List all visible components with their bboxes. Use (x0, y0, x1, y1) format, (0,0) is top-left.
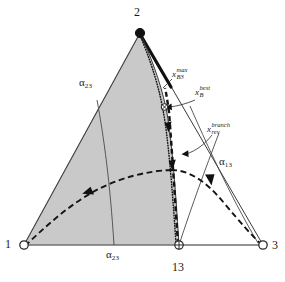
alpha-23-upper-subscript: 23 (85, 82, 92, 90)
azeotrope-label-13: 13 (172, 261, 184, 273)
annotation-x-b-best: xbestB (195, 85, 210, 98)
leader-x-rev-branch-arrowhead (182, 150, 189, 157)
vertex-2-marker (135, 28, 144, 37)
annotation-x-rev-branch-sub: rev (212, 129, 230, 136)
annotation-x-b-best-sub: B (200, 92, 210, 99)
dashed-residue-curve-right (171, 170, 262, 245)
vertex-label-2: 2 (134, 6, 140, 18)
ternary-diagram-figure: 2 1 3 13 α23 α23 α13 xmaxB3 xbestB xbran… (0, 0, 285, 282)
annotation-x-rev-branch: xbranchrev (207, 122, 230, 135)
ternary-diagram-canvas (0, 0, 285, 282)
alpha-23-lower-subscript: 23 (112, 254, 119, 262)
annotation-x-b-best-base: x (195, 87, 199, 97)
x-b-best-marker (161, 104, 168, 111)
annotation-x-rev-branch-base: x (207, 124, 211, 134)
vertex-3-marker (259, 241, 267, 249)
alpha-23-upper-label: α23 (79, 77, 92, 90)
vertex-label-1: 1 (5, 238, 11, 250)
azeotrope-13-marker (175, 241, 184, 250)
alpha-13-isoline-a (179, 133, 219, 245)
alpha-23-lower-label: α23 (106, 249, 119, 262)
annotation-x-b3-max: xmaxB3 (172, 67, 187, 80)
annotation-x-b3-max-base: x (172, 69, 176, 79)
shaded-feasible-region (24, 33, 179, 245)
alpha-13-subscript: 13 (225, 161, 232, 169)
vertex-label-3: 3 (272, 239, 278, 251)
alpha-13-label: α13 (219, 156, 232, 169)
annotation-x-b3-max-sub: B3 (177, 74, 188, 81)
vertex-1-marker (20, 241, 28, 249)
